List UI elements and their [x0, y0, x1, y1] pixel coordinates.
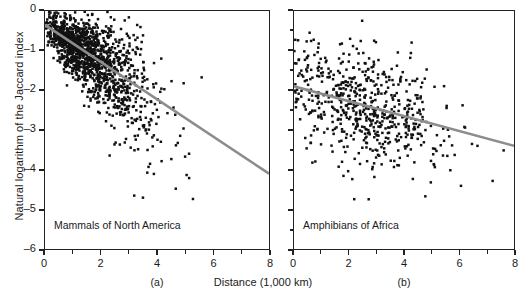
x-tick-label: 4	[392, 257, 416, 269]
x-tick-label: 0	[281, 257, 305, 269]
x-minor-tick-mark	[320, 250, 321, 254]
regression-line-mammals	[45, 11, 269, 249]
x-tick-mark	[514, 250, 515, 255]
x-tick-mark	[403, 250, 404, 255]
x-tick-label: 2	[89, 257, 113, 269]
figure-container: Natural logarithm of the Jaccard index 0…	[0, 0, 526, 291]
x-minor-tick-mark	[72, 250, 73, 254]
y-tick-label: –1	[6, 42, 36, 54]
panel-annotation-amphibians: Amphibians of Africa	[303, 219, 399, 231]
x-tick-mark	[213, 250, 214, 255]
y-tick-label: –4	[6, 162, 36, 174]
scatter-panel-amphibians: Amphibians of Africa	[293, 10, 515, 250]
x-minor-tick-mark	[241, 250, 242, 254]
scatter-panel-mammals: Mammals of North America	[44, 10, 270, 250]
x-minor-tick-mark	[431, 250, 432, 254]
x-tick-mark	[459, 250, 460, 255]
y-tick-label: 0	[6, 2, 36, 14]
x-tick-label: 0	[32, 257, 56, 269]
x-tick-mark	[269, 250, 270, 255]
x-tick-mark	[292, 250, 293, 255]
x-tick-mark	[100, 250, 101, 255]
y-tick-label: –3	[6, 122, 36, 134]
x-tick-mark	[43, 250, 44, 255]
y-tick-label: –2	[6, 82, 36, 94]
panel-annotation-mammals: Mammals of North America	[54, 219, 181, 231]
x-tick-label: 6	[448, 257, 472, 269]
x-minor-tick-mark	[487, 250, 488, 254]
x-axis-label: Distance (1,000 km)	[133, 276, 393, 288]
y-tick-label: –6	[6, 242, 36, 254]
x-tick-label: 6	[202, 257, 226, 269]
x-tick-label: 8	[503, 257, 526, 269]
x-tick-label: 8	[258, 257, 282, 269]
x-tick-label: 2	[337, 257, 361, 269]
x-tick-mark	[156, 250, 157, 255]
x-minor-tick-mark	[376, 250, 377, 254]
x-minor-tick-mark	[128, 250, 129, 254]
x-tick-label: 4	[145, 257, 169, 269]
regression-line-amphibians	[294, 11, 514, 249]
x-minor-tick-mark	[185, 250, 186, 254]
x-tick-mark	[348, 250, 349, 255]
y-tick-label: –5	[6, 202, 36, 214]
